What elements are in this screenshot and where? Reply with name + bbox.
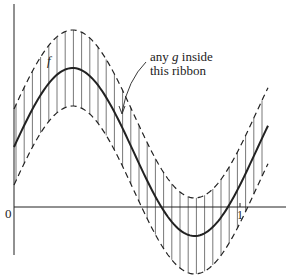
curve-label-f: f bbox=[47, 53, 51, 69]
x-tick-label-1: 1 bbox=[237, 208, 243, 223]
annotation-line-1: any g inside bbox=[150, 50, 213, 64]
origin-label: 0 bbox=[5, 206, 12, 222]
annotation-line-2: this ribbon bbox=[150, 64, 213, 78]
ribbon-plot bbox=[0, 0, 293, 277]
ribbon-annotation: any g inside this ribbon bbox=[150, 50, 213, 78]
figure: f any g inside this ribbon 0 1 bbox=[0, 0, 293, 277]
